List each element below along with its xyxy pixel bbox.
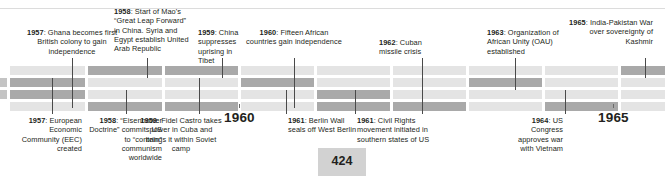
timeline-bar-cell [165, 66, 238, 75]
event-year: 1958 [100, 116, 117, 125]
decade-tick-icon [239, 104, 240, 108]
event-caption-below: 1961: Civil Rights movement initiated in… [357, 116, 437, 144]
timeline-bar-cell [10, 66, 85, 75]
event-leader-line [294, 58, 295, 108]
timeline-column [393, 66, 466, 112]
timeline-bar-cell [88, 90, 162, 99]
top-rule [0, 8, 665, 9]
event-caption-above: 1958: Start of Mao's “Great Leap Forward… [114, 7, 192, 53]
event-caption-below: 1959: Fidel Castro takes power in Cuba a… [140, 116, 222, 153]
timeline-column [621, 66, 665, 112]
event-leader-line [286, 90, 287, 114]
timeline-bar-cell [88, 102, 162, 111]
event-year: 1960 [260, 28, 277, 37]
event-leader-line [355, 90, 356, 114]
timeline-bar-cell [241, 90, 314, 99]
edge-fragment-icon [0, 90, 7, 99]
decade-label: 1960 [224, 110, 255, 125]
event-year: 1963 [487, 28, 504, 37]
decade-label: 1965 [598, 110, 629, 125]
timeline-bar-cell [241, 78, 314, 87]
event-text: : India-Pakistan War over sovereignty of… [586, 18, 653, 46]
timeline-column [10, 66, 85, 112]
timeline-bar-cell [545, 66, 618, 75]
event-caption-above: 1962: Cuban missile crisis [379, 38, 445, 57]
timeline-bar-cell [393, 102, 466, 111]
timeline-column [165, 66, 238, 112]
timeline-column [545, 66, 618, 112]
page-number: 424 [318, 148, 366, 174]
event-year: 1964 [532, 116, 549, 125]
event-year: 1961 [288, 116, 305, 125]
timeline-bar-cell [88, 78, 162, 87]
event-year: 1957 [29, 116, 46, 125]
event-year: 1959 [198, 28, 215, 37]
timeline-bar-cell [241, 66, 314, 75]
timeline-bar-cell [621, 78, 665, 87]
timeline-bar-cell [545, 78, 618, 87]
event-year: 1961 [357, 116, 374, 125]
timeline-bar-cell [469, 102, 542, 111]
timeline-column [88, 66, 162, 112]
timeline-bar-cell [393, 78, 466, 87]
event-year: 1958 [114, 7, 131, 16]
page-number-box: 424 [318, 148, 366, 176]
event-leader-line [645, 58, 646, 78]
timeline-bar-cell [165, 90, 238, 99]
event-year: 1959 [140, 116, 157, 125]
timeline-bar-cell [10, 78, 85, 87]
timeline-bar-cell [469, 90, 542, 99]
decade-tick-icon [613, 104, 614, 108]
event-leader-line [147, 58, 148, 78]
event-leader-line [199, 78, 200, 114]
timeline-bar-cell [317, 102, 390, 111]
timeline-bar-cell [621, 90, 665, 99]
timeline-bar-cell [469, 78, 542, 87]
timeline-bar-cell [621, 66, 665, 75]
decade-marker: 1965 [598, 110, 629, 125]
timeline-bar-cell [10, 90, 85, 99]
event-leader-line [52, 78, 53, 114]
timeline-column [241, 66, 314, 112]
event-leader-line [565, 90, 566, 114]
event-caption-below: 1957: European Economic Community (EEC) … [20, 116, 82, 153]
event-caption-above: 1965: India-Pakistan War over sovereignt… [566, 18, 653, 46]
event-leader-line [515, 58, 516, 90]
timeline-column [317, 66, 390, 112]
event-year: 1962 [379, 38, 396, 47]
event-text: : Ghana becomes first British colony to … [37, 28, 117, 56]
event-leader-line [72, 58, 73, 108]
timeline-bar-cell [317, 66, 390, 75]
timeline-bar-cell [469, 66, 542, 75]
timeline-bar-cell [393, 66, 466, 75]
event-year: 1957 [27, 28, 44, 37]
event-leader-line [126, 90, 127, 114]
timeline-bar-cell [317, 90, 390, 99]
event-caption-above: 1960: Fifteen African countries gain ind… [245, 28, 343, 47]
timeline-page: 1957: Ghana becomes first British colony… [0, 0, 665, 176]
event-caption-below: 1961: Berlin Wall seals off West Berlin [288, 116, 360, 135]
timeline-column [469, 66, 542, 112]
edge-fragment-icon [0, 78, 7, 87]
timeline-bar-cell [545, 90, 618, 99]
timeline-bar-cell [88, 66, 162, 75]
timeline-bar-cell [165, 78, 238, 87]
event-leader-line [422, 58, 423, 114]
timeline-bar-cell [10, 102, 85, 111]
event-caption-below: 1964: US Congress approves war with Viet… [504, 116, 563, 153]
event-year: 1965 [569, 18, 586, 27]
event-caption-above: 1957: Ghana becomes first British colony… [17, 28, 127, 56]
timeline-bar-cell [317, 78, 390, 87]
event-text: : Fidel Castro takes power in Cuba and b… [146, 116, 222, 153]
decade-marker: 1960 [224, 110, 255, 125]
timeline-bar-cell [393, 90, 466, 99]
event-caption-above: 1963: Organization of African Unity (OAU… [487, 28, 575, 56]
event-caption-above: 1959: China suppresses uprising in Tibet [198, 28, 248, 65]
event-leader-line [222, 58, 223, 78]
